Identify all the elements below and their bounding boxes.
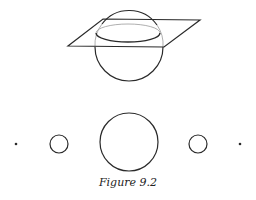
- sphere-upper-arc: [102, 10, 157, 25]
- sphere-lower-arc: [95, 47, 163, 81]
- section-ellipse-front: [96, 33, 160, 42]
- figure-caption: Figure 9.2: [0, 176, 256, 189]
- left-small-circle: [50, 135, 68, 153]
- section-ellipse-back: [96, 24, 160, 33]
- right-dot: [239, 143, 242, 146]
- center-large-circle: [100, 113, 158, 171]
- plane-parallelogram: [68, 19, 200, 47]
- left-dot: [15, 143, 18, 146]
- figure-drawing: [0, 0, 256, 200]
- right-small-circle: [189, 135, 207, 153]
- sphere-hidden-arc: [95, 24, 102, 47]
